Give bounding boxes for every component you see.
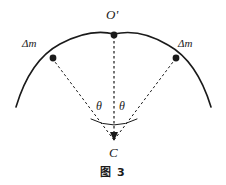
figure-container: O' Δm Δm θ θ C 图 3 bbox=[0, 0, 226, 185]
radius-line-left bbox=[52, 58, 114, 140]
point-marker-mass-left bbox=[50, 55, 57, 62]
label-center: C bbox=[109, 146, 118, 159]
label-mass-left: Δm bbox=[22, 38, 36, 49]
figure-caption: 图 3 bbox=[0, 163, 226, 179]
point-marker-mass-right bbox=[173, 55, 180, 62]
label-angle-right: θ bbox=[119, 100, 125, 112]
label-apex: O' bbox=[106, 8, 118, 21]
label-mass-right: Δm bbox=[178, 38, 192, 49]
label-angle-left: θ bbox=[96, 100, 102, 112]
point-marker-apex bbox=[111, 32, 118, 39]
arrowhead-center bbox=[110, 132, 118, 141]
